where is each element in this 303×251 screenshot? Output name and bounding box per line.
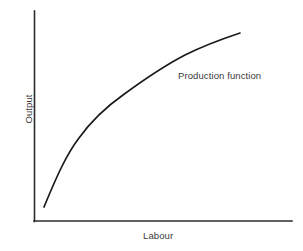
y-axis-label: Output (23, 94, 35, 123)
production-function-curve (44, 33, 240, 207)
production-function-annotation: Production function (178, 70, 261, 82)
production-function-chart: Output Labour Production function (0, 0, 303, 251)
chart-canvas (0, 0, 303, 251)
x-axis-label: Labour (143, 230, 173, 242)
